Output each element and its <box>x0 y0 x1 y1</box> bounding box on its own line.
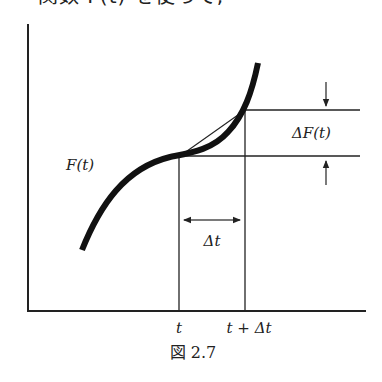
delta-t-label: Δt <box>203 232 222 250</box>
x-tick-t-plus-dt: t + Δt <box>227 319 273 337</box>
delta-f-label: ΔF(t) <box>291 124 331 142</box>
curve-label: F(t) <box>65 156 94 174</box>
x-tick-t: t <box>176 319 183 337</box>
derivative-diagram: F(t) ΔF(t) Δt t t + Δt 図 2.7 <box>0 0 382 382</box>
secant-line <box>180 110 245 156</box>
figure-caption: 図 2.7 <box>170 343 217 362</box>
